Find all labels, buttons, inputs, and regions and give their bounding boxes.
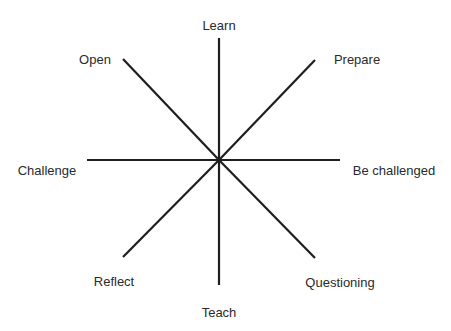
label-reflect: Reflect xyxy=(94,275,134,288)
spoke-reflect xyxy=(123,160,219,257)
label-teach: Teach xyxy=(202,306,237,319)
spoke-questioning xyxy=(219,160,315,258)
label-learn: Learn xyxy=(202,19,235,32)
label-challenge: Challenge xyxy=(18,164,77,177)
label-prepare: Prepare xyxy=(334,53,380,66)
spoke-open xyxy=(123,59,219,160)
spoke-prepare xyxy=(219,60,315,160)
label-be-challenged: Be challenged xyxy=(353,164,435,177)
label-questioning: Questioning xyxy=(305,276,374,289)
label-open: Open xyxy=(79,53,111,66)
